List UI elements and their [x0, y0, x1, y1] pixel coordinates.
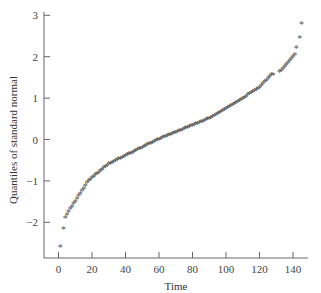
- y-tick-label: −2: [26, 216, 38, 228]
- y-tick-label: 2: [33, 51, 39, 63]
- x-tick-label: 60: [154, 263, 166, 275]
- x-tick-label: 100: [218, 263, 235, 275]
- data-point-star: *: [61, 224, 66, 235]
- x-tick-label: 40: [120, 263, 132, 275]
- y-tick-label: −1: [26, 175, 38, 187]
- x-tick-label: 20: [87, 263, 99, 275]
- data-point-star: *: [58, 242, 63, 253]
- x-tick-label: 0: [56, 263, 62, 275]
- data-point-star: *: [270, 70, 275, 81]
- data-point-star: *: [294, 43, 299, 54]
- x-axis-label: Time: [165, 280, 188, 292]
- y-tick-label: 3: [33, 9, 39, 21]
- x-axis: 020406080100120140: [44, 252, 308, 275]
- x-tick-label: 140: [285, 263, 302, 275]
- y-tick-label: 1: [33, 92, 39, 104]
- x-tick-label: 80: [187, 263, 199, 275]
- x-tick-label: 120: [251, 263, 268, 275]
- y-axis: −2−10123: [26, 9, 50, 258]
- y-tick-label: 0: [33, 134, 39, 146]
- y-axis-label: Quantiles of standard normal: [7, 76, 19, 204]
- data-point-star: *: [299, 19, 304, 30]
- data-point-star: *: [297, 33, 302, 44]
- qq-plot: −2−10123 020406080100120140 Quantiles of…: [0, 0, 321, 293]
- data-points: ****************************************…: [58, 19, 304, 254]
